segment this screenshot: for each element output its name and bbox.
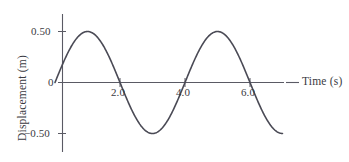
y-tick-label-0.50: 0.50 (31, 25, 51, 37)
x-tick-label-6.0: 6.0 (241, 86, 255, 98)
y-tick-label-0: 0 (48, 76, 54, 88)
displacement-vs-time-chart: 0.50 0 −0.50 2.0 4.0 6.0 Displacement (m… (0, 0, 349, 162)
x-tick-label-4.0: 4.0 (176, 86, 190, 98)
x-tick-label-2.0: 2.0 (111, 86, 125, 98)
x-axis-title: Time (s) (302, 75, 342, 87)
y-axis-title: Displacement (m) (16, 55, 28, 141)
